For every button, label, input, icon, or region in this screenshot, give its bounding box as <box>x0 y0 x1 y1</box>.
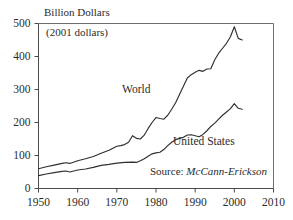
chart-units-note: (2001 dollars) <box>46 27 108 38</box>
series-lines <box>39 27 243 176</box>
x-axis-tick-label: 2010 <box>260 197 288 209</box>
plot-frame-border <box>39 24 274 189</box>
x-axis-tick-label: 1980 <box>142 197 170 209</box>
y-axis-tick-label: 400 <box>1 51 31 63</box>
source-prefix: Source: <box>150 165 186 177</box>
plot-axes <box>39 24 274 189</box>
advertising-expenditure-chart: 0100200300400500195019601970198019902000… <box>0 0 293 220</box>
series-label-world: World <box>122 84 150 96</box>
plot-frame <box>39 24 274 189</box>
y-axis-tick-label: 100 <box>1 150 31 162</box>
source-provider: McCann-Erickson <box>186 165 267 177</box>
chart-axis-title: Billion Dollars <box>44 7 110 18</box>
y-axis-tick-label: 0 <box>1 183 31 195</box>
x-axis-tick-label: 1960 <box>64 197 92 209</box>
x-axis-tick-label: 1990 <box>181 197 209 209</box>
x-axis-tick-label: 2000 <box>220 197 248 209</box>
y-axis-tick-label: 500 <box>1 18 31 30</box>
y-axis-tick-label: 300 <box>1 84 31 96</box>
x-axis-tick-label: 1950 <box>25 197 53 209</box>
y-axis-tick-label: 200 <box>1 117 31 129</box>
chart-source-note: Source: McCann-Erickson <box>150 166 267 177</box>
chart-canvas <box>0 0 293 220</box>
x-axis-tick-label: 1970 <box>103 197 131 209</box>
series-label-united-states: United States <box>173 136 235 148</box>
